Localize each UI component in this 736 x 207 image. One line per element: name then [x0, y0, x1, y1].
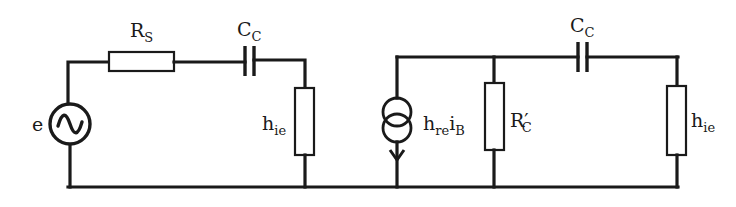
rs-label: RS	[130, 19, 153, 45]
rc-prime-label: R′C	[510, 109, 532, 135]
resistor-hie-right	[667, 86, 686, 155]
resistor-rc-prime	[485, 83, 504, 150]
capacitor-cc-right	[578, 42, 587, 72]
csrc-label: hreiB	[423, 112, 465, 138]
hie-left-label: hie	[262, 112, 286, 138]
source-label: e	[32, 113, 43, 135]
circuit-diagram: e RS CC hie hreiB R′C	[0, 0, 736, 207]
hie-right-label: hie	[691, 109, 715, 135]
resistor-rs	[109, 52, 174, 71]
resistor-hie-left	[295, 88, 314, 155]
ac-source-icon	[50, 104, 90, 144]
cc-left-label: CC	[237, 18, 262, 44]
cc-hie-wire	[254, 60, 305, 88]
cc-right-label: CC	[570, 14, 595, 40]
source-top-wire	[68, 62, 108, 102]
current-source-icon	[383, 98, 411, 142]
